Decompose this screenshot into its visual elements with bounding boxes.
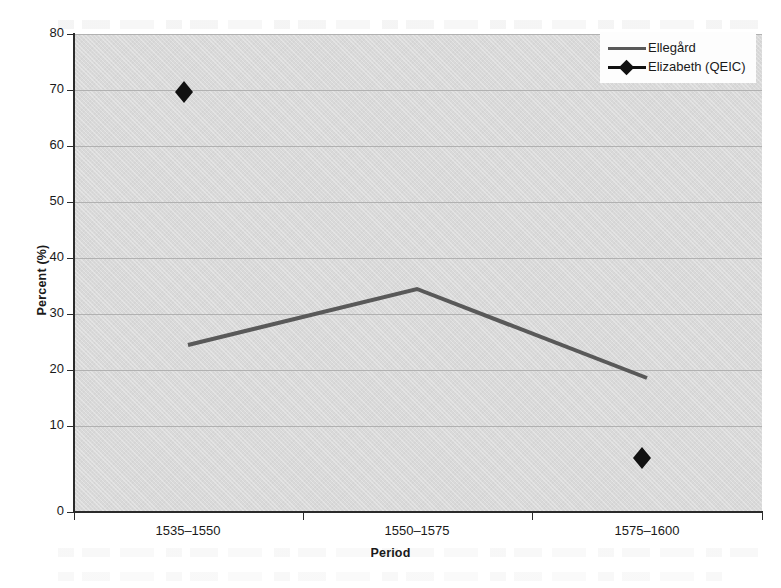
y-axis-line [73, 33, 75, 513]
y-tick-label-0: 0 [8, 503, 64, 518]
y-tick-label-50: 50 [8, 193, 64, 208]
y-tick-label-10: 10 [8, 417, 64, 432]
x-tick-boundary-2 [532, 513, 533, 520]
x-tick-boundary-0 [74, 513, 75, 520]
y-tick-labels: 80 70 60 50 40 30 20 10 0 [0, 0, 64, 588]
legend-item-elizabeth: Elizabeth (QEIC) [608, 57, 746, 76]
y-tick-50 [67, 202, 73, 203]
legend-label-ellegard: Ellegård [648, 40, 696, 55]
y-axis-title: Percent (%) [35, 220, 49, 340]
gridline-40 [74, 258, 762, 259]
x-axis-title: Period [0, 546, 781, 560]
gridline-50 [74, 202, 762, 203]
y-tick-20 [67, 370, 73, 371]
x-tick-boundary-1 [303, 513, 304, 520]
y-tick-30 [67, 314, 73, 315]
x-tick-label-1: 1550–1575 [384, 523, 449, 538]
legend-item-ellegard: Ellegård [608, 38, 746, 57]
gridline-60 [74, 146, 762, 147]
y-tick-80 [67, 34, 73, 35]
chart-figure: 80 70 60 50 40 30 20 10 0 1535–1550 1550… [0, 0, 781, 588]
y-tick-label-60: 60 [8, 137, 64, 152]
x-tick-boundary-3 [762, 513, 763, 520]
y-tick-70 [67, 90, 73, 91]
gridline-30 [74, 314, 762, 315]
gridline-70 [74, 90, 762, 91]
gridline-10 [74, 426, 762, 427]
legend-label-elizabeth: Elizabeth (QEIC) [648, 59, 746, 74]
plot-area [74, 34, 762, 512]
x-tick-label-2: 1575–1600 [614, 523, 679, 538]
y-tick-60 [67, 146, 73, 147]
legend-swatch-line-diamond-icon [608, 60, 646, 74]
y-tick-label-70: 70 [8, 81, 64, 96]
x-axis-line [73, 511, 763, 513]
y-tick-0 [67, 512, 73, 513]
y-tick-10 [67, 426, 73, 427]
y-tick-label-80: 80 [8, 25, 64, 40]
y-tick-label-20: 20 [8, 361, 64, 376]
legend: Ellegård Elizabeth (QEIC) [600, 32, 756, 83]
x-tick-label-0: 1535–1550 [155, 523, 220, 538]
legend-swatch-line-icon [608, 41, 646, 55]
gridline-20 [74, 370, 762, 371]
y-tick-40 [67, 258, 73, 259]
